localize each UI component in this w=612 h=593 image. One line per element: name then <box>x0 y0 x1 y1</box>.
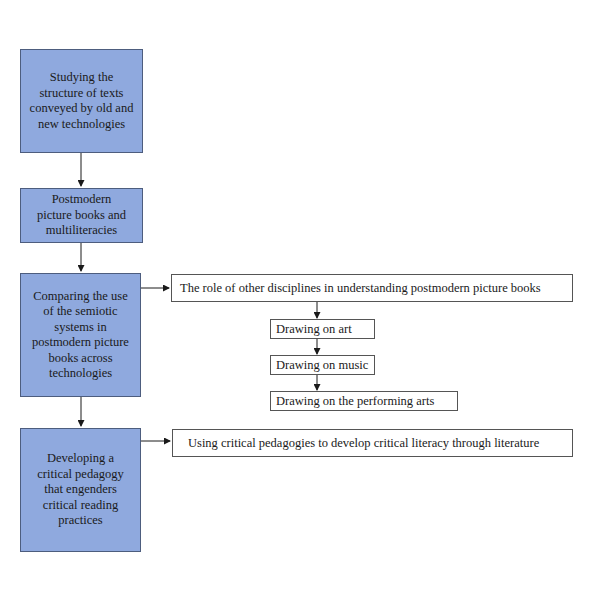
branch-label: Using critical pedagogies to develop cri… <box>188 436 539 450</box>
branch-label: The role of other disciplines in underst… <box>180 281 541 295</box>
step-comparing-semiotic-systems: Comparing the use of the semiotic system… <box>20 273 141 397</box>
branch-role-of-disciplines: The role of other disciplines in underst… <box>171 274 573 302</box>
step-developing-critical-pedagogy: Developing a critical pedagogy that enge… <box>20 428 141 552</box>
substep-drawing-on-music: Drawing on music <box>270 355 375 375</box>
substep-drawing-on-performing-arts: Drawing on the performing arts <box>270 391 458 411</box>
step-label: Postmodern picture books and multilitera… <box>27 192 136 239</box>
step-label: Developing a critical pedagogy that enge… <box>27 451 134 529</box>
substep-label: Drawing on music <box>276 358 368 372</box>
step-postmodern-multiliteracies: Postmodern picture books and multilitera… <box>20 188 143 243</box>
branch-critical-literacy: Using critical pedagogies to develop cri… <box>172 429 573 457</box>
step-label: Comparing the use of the semiotic system… <box>27 289 134 382</box>
step-studying-structure: Studying the structure of texts conveyed… <box>20 49 143 153</box>
substep-drawing-on-art: Drawing on art <box>270 319 375 339</box>
substep-label: Drawing on the performing arts <box>276 394 434 408</box>
step-label: Studying the structure of texts conveyed… <box>27 70 136 132</box>
substep-label: Drawing on art <box>276 322 352 336</box>
